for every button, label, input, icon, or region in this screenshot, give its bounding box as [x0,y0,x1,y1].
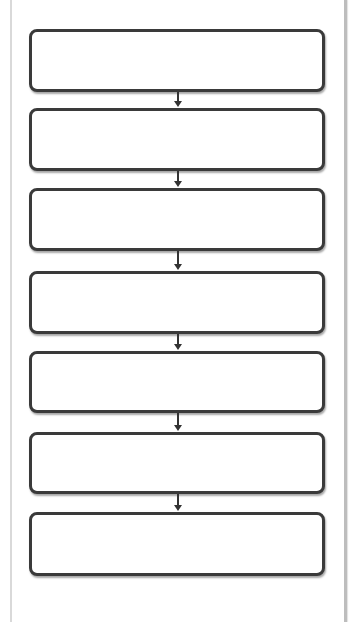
arrow-shaft [177,251,179,265]
arrow-head [174,344,182,350]
frame-left-border [10,0,12,622]
down-arrow-icon [175,413,181,432]
flow-step-box-4 [29,271,325,334]
down-arrow-icon [175,251,181,271]
flow-step-box-2 [29,108,325,171]
flow-step-box-6 [29,432,325,494]
flow-step-box-5 [29,351,325,413]
arrow-head [174,101,182,107]
flow-step-box-7 [29,512,325,576]
down-arrow-icon [175,494,181,512]
down-arrow-icon [175,334,181,351]
arrow-head [174,505,182,511]
flow-step-box-1 [29,29,325,92]
down-arrow-icon [175,92,181,108]
flow-step-box-3 [29,188,325,251]
down-arrow-icon [175,171,181,188]
arrow-head [174,181,182,187]
arrow-head [174,264,182,270]
flowchart-canvas [0,0,354,622]
frame-right-border [344,0,347,622]
arrow-head [174,425,182,431]
